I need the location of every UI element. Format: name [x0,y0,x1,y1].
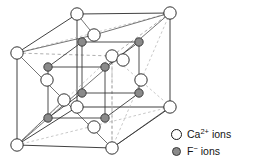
ca-ion-bottom-face-center [88,121,100,133]
ca-ion-top-back-right [164,7,176,19]
f-ion-top-back-right [135,38,143,46]
hidden-edge-b [112,13,170,56]
ca-ion-back-face-center [117,54,129,66]
f-ion-bottom-back-right [135,89,143,97]
ca-ion-right-face-center [135,74,147,86]
ca-ion-front-face-center [58,94,70,106]
ca-ion-bottom-front-right [106,142,118,154]
filled-circle-icon [172,147,181,156]
edge-tbl-tbr [77,13,170,14]
ca-ion-bottom-back-left [71,101,83,113]
ca-ion-top-back-left [71,8,83,20]
f-ion-bottom-back-left [78,89,86,97]
legend: Ca2+ ions F− ions [171,126,249,160]
legend-item-fluoride: F− ions [171,143,249,160]
diag-topface-tbr [94,13,170,35]
legend-charge-calcium: 2+ [200,127,209,136]
ca-ion-top-face-center [88,29,100,41]
legend-item-calcium: Ca2+ ions [171,126,249,143]
ca-ion-top-front-right [106,50,118,62]
f-ion-bottom-front-left [44,114,52,122]
ca-ion-top-front-left [11,47,23,59]
legend-suffix-calcium: ions [209,128,231,140]
f-ion-top-front-right [101,63,109,71]
legend-suffix-fluoride: ions [198,145,220,157]
legend-label-calcium: Ca2+ ions [187,126,231,143]
legend-label-fluoride: F− ions [187,143,220,160]
f-ion-bottom-front-right [101,114,109,122]
edge-tfl-tbl [17,14,77,53]
diag-right-low [112,107,170,148]
inner-edge-bot-right [105,93,139,118]
legend-symbol-calcium: Ca [187,128,200,140]
edge-bfl-bfr [17,145,112,148]
diag-front-lowleft [17,100,64,145]
ca-ion-bottom-front-left [11,139,23,151]
ca-ion-left-face-center [41,74,53,86]
open-circle-icon [171,129,182,140]
f-ion-top-front-left [44,63,52,71]
f-ion-top-back-left [78,38,86,46]
ca-ion-bottom-back-right [164,101,176,113]
edge-bfl-bbl [17,107,77,145]
